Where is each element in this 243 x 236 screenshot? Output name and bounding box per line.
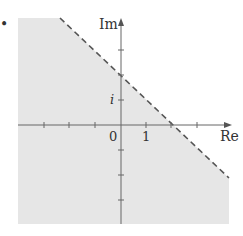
real-axis-label: Re	[220, 128, 239, 144]
y-tick-label-i: i	[110, 92, 114, 107]
origin-label: 0	[109, 129, 117, 144]
bullet-marker: •	[0, 16, 8, 32]
imaginary-axis-label: Im	[99, 16, 118, 32]
complex-plane-diagram: • Im Re 0 1 i	[0, 0, 243, 236]
imaginary-axis-arrow-icon	[118, 18, 124, 26]
x-tick-label-1: 1	[142, 129, 150, 144]
shaded-region	[18, 18, 229, 224]
